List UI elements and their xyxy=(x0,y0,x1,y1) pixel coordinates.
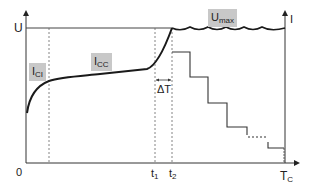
i-axis-label: I xyxy=(290,14,293,25)
origin-label: 0 xyxy=(16,167,22,178)
u-axis-label: U xyxy=(14,22,23,34)
umax-wavy-line xyxy=(172,27,285,30)
ici-sub: CI xyxy=(35,70,43,79)
current-final-step xyxy=(268,142,284,148)
icc-sub: CC xyxy=(97,60,109,69)
delta-t-label: ΔT xyxy=(157,84,171,95)
t2-sub: 2 xyxy=(172,172,176,181)
tc-sub: C xyxy=(287,175,293,184)
ici-label-box: ICI xyxy=(29,63,46,81)
charging-diagram xyxy=(0,0,314,190)
t1-sub: 1 xyxy=(154,172,158,181)
tc-label: TC xyxy=(280,170,293,184)
t2-label: t2 xyxy=(169,168,177,181)
umax-label-box: Umax xyxy=(208,9,237,27)
umax-sub: max xyxy=(219,16,234,25)
current-step-curve xyxy=(172,52,247,135)
icc-label-box: ICC xyxy=(91,53,112,71)
umax-main: U xyxy=(211,11,219,23)
t1-label: t1 xyxy=(151,168,159,181)
